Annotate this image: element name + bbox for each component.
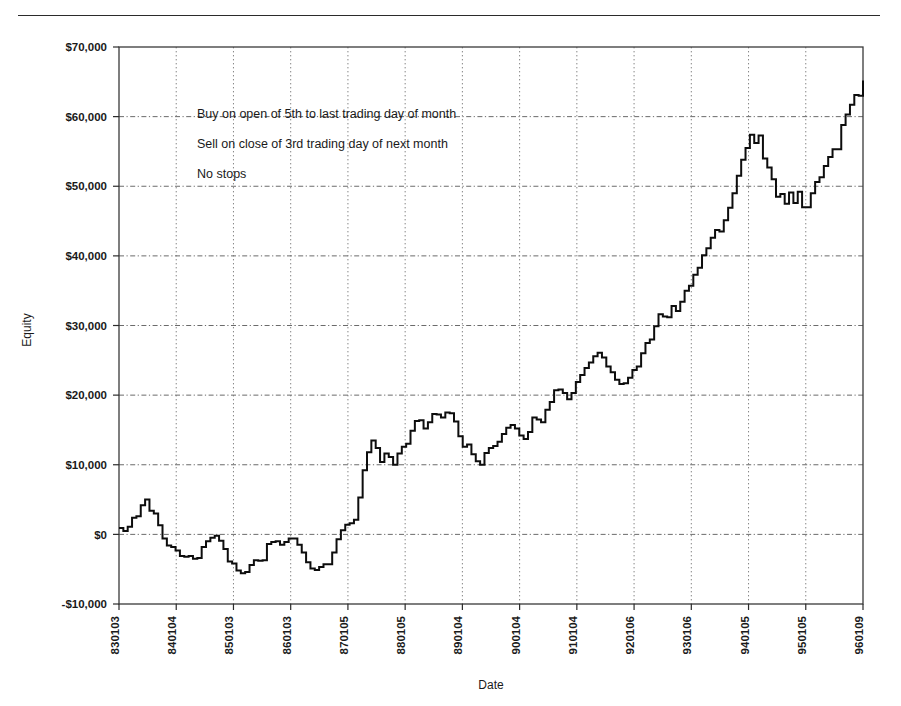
equity-series-line <box>119 80 863 573</box>
x-tick-label: 950105 <box>796 615 808 654</box>
y-tick-label: -$10,000 <box>62 598 107 610</box>
x-tick-label: 920106 <box>624 616 636 654</box>
x-axis-tickmarks <box>119 604 863 610</box>
y-axis-title: Equity <box>20 313 34 346</box>
y-tick-label: $60,000 <box>65 111 107 123</box>
y-axis-tick-labels: $70,000$60,000$50,000$40,000$30,000$20,0… <box>62 41 107 610</box>
x-tick-label: 870105 <box>338 615 350 654</box>
y-tick-label: $10,000 <box>65 459 107 471</box>
y-tick-label: $40,000 <box>65 250 107 262</box>
x-tick-label: 910104 <box>567 615 579 654</box>
x-tick-label: 830103 <box>109 616 121 654</box>
annotation-line-1: Buy on open of 5th to last trading day o… <box>197 107 456 121</box>
x-tick-label: 840104 <box>166 615 178 654</box>
x-tick-label: 930106 <box>681 616 693 654</box>
equity-curve-figure: $70,000$60,000$50,000$40,000$30,000$20,0… <box>0 0 901 706</box>
annotation-line-2: Sell on close of 3rd trading day of next… <box>197 137 448 151</box>
y-axis-tickmarks <box>113 47 119 604</box>
x-axis-title: Date <box>478 678 504 692</box>
x-tick-label: 850103 <box>223 616 235 654</box>
y-tick-label: $50,000 <box>65 180 107 192</box>
x-tick-label: 860103 <box>281 616 293 654</box>
figure-page: $70,000$60,000$50,000$40,000$30,000$20,0… <box>0 0 901 706</box>
y-tick-label: $0 <box>94 529 107 541</box>
annotation-line-3: No stops <box>197 167 246 181</box>
y-tick-label: $20,000 <box>65 389 107 401</box>
y-tick-label: $70,000 <box>65 41 107 53</box>
x-tick-label: 900104 <box>510 615 522 654</box>
x-tick-label: 960109 <box>853 616 865 654</box>
x-tick-label: 880105 <box>395 615 407 654</box>
x-axis-tick-labels: 8301038401048501038601038701058801058901… <box>109 615 865 654</box>
y-tick-label: $30,000 <box>65 320 107 332</box>
x-tick-label: 940105 <box>739 615 751 654</box>
x-tick-label: 890104 <box>452 615 464 654</box>
equity-chart: $70,000$60,000$50,000$40,000$30,000$20,0… <box>0 0 901 706</box>
